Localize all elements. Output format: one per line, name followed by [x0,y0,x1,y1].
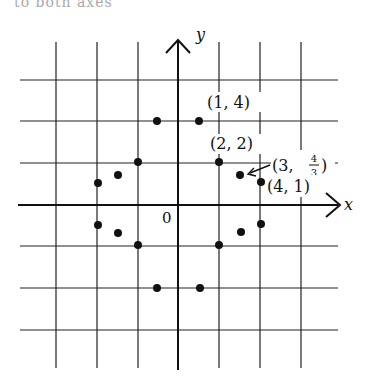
label-4-1: (4, 1) [267,177,310,196]
point-4-1 [257,178,265,186]
point-neg4-neg1 [94,221,102,229]
point-neg3-4thirds [114,171,122,179]
point-1-neg4 [196,284,204,292]
point-1-4 [195,117,203,125]
axes [18,40,340,370]
label-2-2: (2, 2) [210,134,253,153]
x-axis-label: x [344,195,353,214]
point-2-2 [215,158,223,166]
point-neg4-1 [94,179,102,187]
point-neg1-4 [153,117,161,125]
point-3-4thirds [236,171,244,179]
point-neg1-neg4 [153,284,161,292]
point-neg2-neg2 [134,241,142,249]
point-labels: (1, 4) (2, 2) (3, 4 3 ) (4, 1) [206,92,335,197]
origin-label: 0 [162,209,172,227]
point-2-neg2 [215,241,223,249]
point-neg2-2 [134,158,142,166]
y-axis-label: y [195,25,206,44]
label-1-4: (1, 4) [207,93,250,112]
label-3-prefix: (3, [272,156,294,175]
label-3-frac-num: 4 [311,153,317,164]
point-3-neg4thirds [237,228,245,236]
point-4-neg1 [257,220,265,228]
label-3-suffix: ) [321,156,327,175]
point-neg3-neg4thirds [114,229,122,237]
coordinate-plot: y x 0 (1, 4) (2, 2) (3, 4 3 ) (4, [0,0,372,380]
